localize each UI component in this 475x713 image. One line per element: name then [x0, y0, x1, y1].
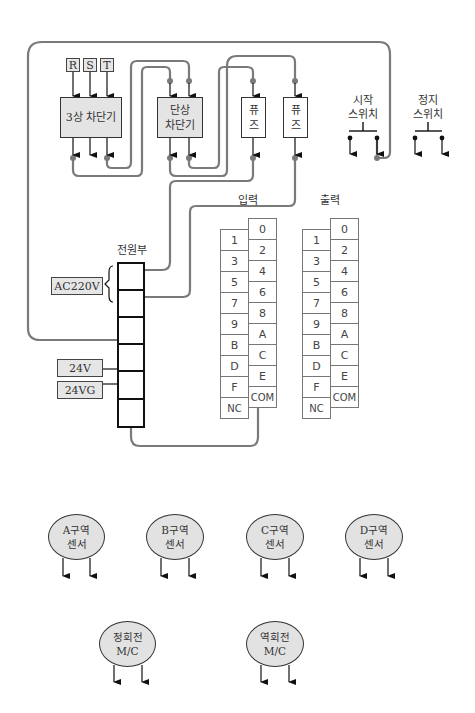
- output-terminal-cell: A: [330, 323, 359, 345]
- fuse-2-line1: 퓨: [291, 103, 301, 118]
- sensor-b-line1: B구역: [161, 523, 189, 537]
- input-terminal-title: 입력: [228, 194, 268, 208]
- sensor-b-line2: 센서: [165, 537, 185, 551]
- psu-divider: [117, 343, 145, 345]
- phase-r-box: R: [66, 58, 80, 72]
- sensor-c: C구역 센서: [246, 514, 304, 560]
- sensor-c-line1: C구역: [261, 523, 289, 537]
- output-terminal-cell: C: [330, 344, 359, 366]
- forward-contactor-line1: 정회전: [113, 630, 143, 644]
- start-switch-line1: 시작: [343, 94, 383, 108]
- fuse-1: 퓨 즈: [241, 97, 266, 138]
- psu-divider: [117, 289, 145, 291]
- sensor-a-line1: A구역: [63, 523, 91, 537]
- power-supply-title: 전원부: [112, 244, 152, 258]
- single-phase-breaker-line2: 차단기: [165, 118, 195, 133]
- output-terminal-cell: 9: [302, 313, 331, 335]
- input-terminal-cell: 2: [248, 239, 277, 261]
- output-terminal-cell: 8: [330, 302, 359, 324]
- single-phase-breaker: 단상 차단기: [157, 97, 203, 138]
- output-terminal-cell: 2: [330, 239, 359, 261]
- input-terminal-cell: 5: [220, 271, 249, 293]
- input-terminal-cell: B: [220, 334, 249, 356]
- input-terminal-cell: 4: [248, 260, 277, 282]
- stop-switch-line1: 정지: [408, 94, 448, 108]
- psu-divider: [117, 370, 145, 372]
- sensor-d-line1: D구역: [360, 523, 388, 537]
- single-phase-breaker-line1: 단상: [170, 103, 190, 118]
- output-terminal-cell: F: [302, 376, 331, 398]
- output-terminal-cell: 6: [330, 281, 359, 303]
- input-terminal-cell: F: [220, 376, 249, 398]
- output-terminal-cell: 1: [302, 229, 331, 251]
- input-terminal-cell: 1: [220, 229, 249, 251]
- fuse-2-line2: 즈: [291, 118, 301, 133]
- input-terminal-cell: C: [248, 344, 277, 366]
- three-phase-breaker-label: 3상 차단기: [66, 110, 117, 125]
- input-terminal-nc: NC: [220, 397, 249, 419]
- input-terminal-cell: 6: [248, 281, 277, 303]
- stop-switch-line2: 스위치: [408, 108, 448, 122]
- reverse-contactor-line2: M/C: [264, 644, 286, 658]
- input-terminal-cell: 3: [220, 250, 249, 272]
- output-terminal-title: 출력: [310, 194, 350, 208]
- psu-divider: [117, 316, 145, 318]
- input-terminal-com: COM: [248, 386, 277, 408]
- phase-s-box: S: [83, 58, 97, 72]
- start-switch-line2: 스위치: [343, 108, 383, 122]
- three-phase-breaker: 3상 차단기: [60, 97, 122, 138]
- start-switch-label: 시작 스위치: [343, 94, 383, 122]
- output-terminal-cell: B: [302, 334, 331, 356]
- fuse-1-line1: 퓨: [249, 103, 259, 118]
- input-terminal-cell: E: [248, 365, 277, 387]
- output-terminal-cell: 3: [302, 250, 331, 272]
- input-terminal-cell: 9: [220, 313, 249, 335]
- input-terminal-cell: 7: [220, 292, 249, 314]
- sensor-c-line2: 센서: [265, 537, 285, 551]
- output-terminal-cell: E: [330, 365, 359, 387]
- output-terminal-cell: 0: [330, 218, 359, 240]
- fuse-2: 퓨 즈: [283, 97, 308, 138]
- ac220v-label: AC220V: [51, 277, 103, 295]
- 24v-label: 24V: [57, 359, 103, 377]
- sensor-a: A구역 센서: [48, 514, 105, 560]
- input-terminal-cell: 0: [248, 218, 277, 240]
- sensor-b: B구역 센서: [146, 514, 204, 560]
- input-terminal-cell: D: [220, 355, 249, 377]
- fuse-1-line2: 즈: [249, 118, 259, 133]
- sensor-d-line2: 센서: [364, 537, 384, 551]
- 24vg-label: 24VG: [57, 381, 103, 399]
- output-terminal-nc: NC: [302, 397, 331, 419]
- output-terminal-com: COM: [330, 386, 359, 408]
- reverse-contactor: 역회전 M/C: [246, 621, 304, 667]
- input-terminal-cell: A: [248, 323, 277, 345]
- input-terminal-cell: 8: [248, 302, 277, 324]
- sensor-a-line2: 센서: [67, 537, 87, 551]
- output-terminal-cell: 7: [302, 292, 331, 314]
- output-terminal-cell: 4: [330, 260, 359, 282]
- sensor-d: D구역 센서: [345, 514, 403, 560]
- psu-divider: [117, 398, 145, 400]
- forward-contactor-line2: M/C: [116, 644, 138, 658]
- forward-contactor: 정회전 M/C: [99, 621, 156, 667]
- reverse-contactor-line1: 역회전: [260, 630, 290, 644]
- phase-t-box: T: [100, 58, 114, 72]
- output-terminal-cell: D: [302, 355, 331, 377]
- output-terminal-cell: 5: [302, 271, 331, 293]
- stop-switch-label: 정지 스위치: [408, 94, 448, 122]
